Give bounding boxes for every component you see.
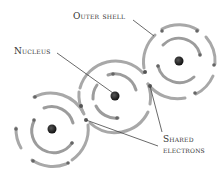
electrons xyxy=(14,95,74,165)
nucleus-leader xyxy=(57,53,113,93)
outer-shell-leader xyxy=(133,20,154,36)
shared-electrons-label-line2: electrons xyxy=(163,145,205,155)
left-atom xyxy=(14,93,88,166)
shared-electrons-label-line1: Shared xyxy=(163,134,194,144)
shared-leader-1 xyxy=(86,120,158,146)
outer-shell-label: Outer shell xyxy=(73,11,125,21)
nucleus xyxy=(175,57,184,66)
middle-atom xyxy=(79,61,151,133)
nucleus-label: Nucleus xyxy=(14,46,50,56)
leader-lines xyxy=(57,20,162,146)
nucleus xyxy=(48,125,57,134)
nucleus xyxy=(111,92,120,101)
right-atom xyxy=(143,25,215,99)
